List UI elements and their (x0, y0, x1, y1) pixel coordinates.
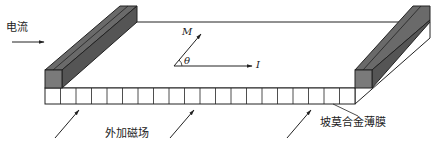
current-vector-symbol: I (256, 59, 260, 70)
angle-symbol: θ (184, 55, 190, 66)
field-arrow-1 (55, 110, 79, 138)
external-field-label: 外加磁场 (105, 124, 149, 140)
current-label: 电流 (6, 18, 28, 34)
field-arrow-2 (170, 110, 194, 138)
field-arrow-3 (287, 110, 311, 138)
film-label: 坡莫合金薄膜 (320, 113, 386, 129)
permalloy-film-diagram: 电流 外加磁场 坡莫合金薄膜 M θ I (0, 0, 431, 151)
magnetization-symbol: M (182, 26, 192, 37)
